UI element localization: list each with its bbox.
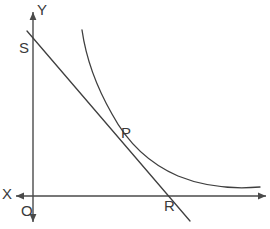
point-r-label: R: [164, 198, 175, 213]
point-p-label: P: [121, 125, 131, 140]
y-axis-label: Y: [37, 2, 47, 17]
y-axis: [30, 12, 37, 222]
x-axis-right-arrow-icon: [258, 193, 266, 200]
y-axis-up-arrow-icon: [30, 12, 37, 20]
figure-canvas: [0, 0, 270, 229]
origin-label: O: [21, 203, 33, 218]
x-axis-label: X: [2, 186, 12, 201]
geometry-figure: Y S P R X O: [0, 0, 270, 229]
tangent-line-SR: [27, 31, 190, 221]
hyperbola-curve: [82, 30, 260, 188]
point-s-label: S: [19, 40, 29, 55]
x-axis: [16, 193, 266, 200]
x-axis-left-arrow-icon: [16, 193, 24, 200]
